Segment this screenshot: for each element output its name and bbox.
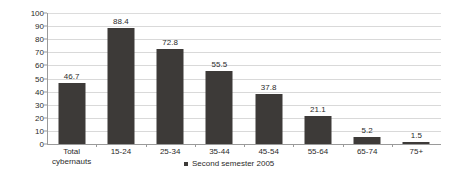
x-category-label: 25-34: [146, 147, 195, 157]
y-tick-label: 0: [4, 140, 44, 149]
x-category-label-line: 45-54: [244, 147, 293, 157]
y-tick-label: 100: [4, 9, 44, 18]
bar-group: 1.5: [392, 13, 441, 144]
bars-layer: 46.788.472.855.537.821.15.21.5: [47, 13, 441, 144]
x-category-label: 45-54: [244, 147, 293, 157]
x-category-label-line: cybernauts: [47, 157, 96, 167]
bar: [403, 142, 430, 144]
x-category-label: 55-64: [293, 147, 342, 157]
x-category-label: 75+: [392, 147, 441, 157]
bar-value-label: 72.8: [162, 38, 178, 47]
bar-value-label: 21.1: [310, 105, 326, 114]
x-tick-mark: [244, 144, 245, 147]
bar-value-label: 55.5: [212, 60, 228, 69]
bar-group: 72.8: [146, 13, 195, 144]
x-tick-mark: [146, 144, 147, 147]
y-tick-label: 20: [4, 113, 44, 122]
legend-swatch-icon: [184, 162, 188, 166]
x-category-label: 35-44: [195, 147, 244, 157]
bar: [107, 28, 134, 144]
bar: [354, 137, 381, 144]
x-tick-mark: [343, 144, 344, 147]
x-category-label-line: 65-74: [343, 147, 392, 157]
x-category-label-line: 25-34: [146, 147, 195, 157]
y-tick-label: 40: [4, 87, 44, 96]
bar-value-label: 46.7: [64, 72, 80, 81]
x-tick-mark: [293, 144, 294, 147]
bar: [255, 94, 282, 144]
y-tick-label: 60: [4, 61, 44, 70]
bar: [304, 116, 331, 144]
x-category-label-line: 35-44: [195, 147, 244, 157]
bar-group: 46.7: [47, 13, 96, 144]
y-tick-label: 50: [4, 74, 44, 83]
bar-group: 55.5: [195, 13, 244, 144]
x-tick-mark: [195, 144, 196, 147]
y-tick-label: 30: [4, 100, 44, 109]
chart-legend: Second semester 2005: [184, 159, 274, 168]
x-category-label-line: 75+: [392, 147, 441, 157]
x-category-label: 15-24: [96, 147, 145, 157]
y-tick-label: 70: [4, 48, 44, 57]
bar: [206, 71, 233, 144]
y-axis: 0102030405060708090100: [0, 0, 44, 176]
x-category-label-line: 15-24: [96, 147, 145, 157]
x-category-label: Totalcybernauts: [47, 147, 96, 167]
bar-chart: 0102030405060708090100 46.788.472.855.53…: [0, 0, 454, 176]
bar: [157, 49, 184, 144]
bar-group: 37.8: [244, 13, 293, 144]
x-category-label-line: Total: [47, 147, 96, 157]
bar-group: 21.1: [293, 13, 342, 144]
y-tick-label: 90: [4, 22, 44, 31]
bar-group: 5.2: [343, 13, 392, 144]
legend-label: Second semester 2005: [192, 159, 274, 168]
bar-value-label: 37.8: [261, 83, 277, 92]
y-tick-label: 80: [4, 35, 44, 44]
x-tick-mark: [392, 144, 393, 147]
bar-group: 88.4: [96, 13, 145, 144]
x-category-label: 65-74: [343, 147, 392, 157]
bar: [58, 83, 85, 144]
y-tick-label: 10: [4, 126, 44, 135]
bar-value-label: 5.2: [362, 126, 373, 135]
x-tick-mark: [96, 144, 97, 147]
bar-value-label: 1.5: [411, 131, 422, 140]
x-category-label-line: 55-64: [293, 147, 342, 157]
bar-value-label: 88.4: [113, 17, 129, 26]
